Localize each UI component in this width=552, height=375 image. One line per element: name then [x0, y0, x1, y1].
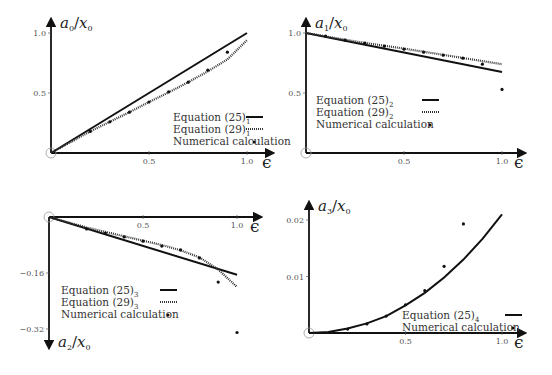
data-point	[385, 314, 388, 317]
y-axis-label: a0/x0	[60, 14, 93, 33]
data-point	[462, 222, 465, 225]
legend-entry: Numerical calculation	[61, 308, 179, 320]
y-tick-label: 0.01	[286, 273, 304, 282]
data-point	[141, 240, 144, 243]
data-point	[344, 39, 347, 42]
data-point	[108, 120, 111, 123]
data-point	[383, 45, 386, 48]
data-point	[500, 88, 503, 91]
x-tick-label: 0.5	[398, 157, 411, 166]
y-tick-label: −0.32	[19, 325, 44, 334]
y-axis-label: a2/x0	[58, 333, 91, 352]
data-point	[422, 51, 425, 54]
panel-a2: 0.51.0−0.16−0.32ϵa2/x0Equation (25)3Equa…	[19, 212, 259, 352]
data-point	[147, 100, 150, 103]
y-tick-label: 0.5	[33, 89, 46, 98]
data-point	[179, 248, 182, 251]
data-point	[402, 48, 405, 51]
data-point	[346, 327, 349, 330]
x-tick-label: 0.5	[137, 221, 150, 230]
data-point	[167, 90, 170, 93]
legend-point-icon	[253, 141, 256, 144]
data-point	[423, 289, 426, 292]
y-tick-label: 1.0	[288, 29, 301, 38]
data-point	[461, 57, 464, 60]
series-line-solid	[306, 33, 502, 72]
data-point	[217, 281, 220, 284]
data-point	[363, 42, 366, 45]
y-axis-label: a3/x0	[318, 197, 351, 216]
legend-point-icon	[167, 314, 170, 317]
legend-entry: Numerical calculation	[316, 118, 434, 130]
y-axis-label: a1/x0	[315, 14, 348, 33]
data-point	[160, 244, 163, 247]
legend: Equation (25)2Equation (29)2Numerical ca…	[316, 94, 439, 130]
data-point	[442, 54, 445, 57]
data-point	[198, 256, 201, 259]
data-point	[324, 34, 327, 37]
data-point	[187, 81, 190, 84]
data-point	[443, 265, 446, 268]
data-point	[123, 235, 126, 238]
y-tick-label: 1.0	[33, 29, 46, 38]
legend: Equation (25)3Equation (29)3Numerical ca…	[61, 284, 179, 320]
x-axis-label: ϵ	[514, 152, 524, 172]
data-point	[481, 63, 484, 66]
y-tick-label: 0.02	[286, 216, 304, 225]
legend-point-icon	[429, 124, 432, 127]
data-point	[235, 331, 238, 334]
data-point	[206, 69, 209, 72]
data-point	[89, 130, 92, 133]
data-point	[85, 227, 88, 230]
y-tick-label: 0.5	[288, 89, 301, 98]
legend: Equation (25)1Equation (29)1Numerical ca…	[173, 111, 291, 147]
x-tick-label: 0.5	[143, 157, 156, 166]
data-point	[128, 111, 131, 114]
panel-a0: 0.51.00.51.0ϵa0/x0Equation (25)1Equation…	[33, 14, 291, 172]
legend-entry: Numerical calculation	[173, 135, 291, 147]
figure: 0.51.00.51.0ϵa0/x0Equation (25)1Equation…	[0, 0, 552, 375]
panel-a3: 0.51.00.010.02ϵa3/x0Equation (25)4Numeri…	[286, 197, 523, 352]
data-point	[365, 322, 368, 325]
y-tick-label: −0.16	[19, 269, 44, 278]
data-point	[404, 303, 407, 306]
x-axis-label: ϵ	[262, 152, 272, 172]
x-tick-label: 0.5	[399, 337, 412, 346]
x-tick-label: 1.0	[496, 337, 509, 346]
x-axis-label: ϵ	[250, 216, 260, 236]
x-tick-label: 1.0	[241, 157, 254, 166]
x-tick-label: 1.0	[496, 157, 509, 166]
data-point	[104, 232, 107, 235]
x-axis-label: ϵ	[514, 332, 524, 352]
panel-a1: 0.51.00.51.0ϵa1/x0Equation (25)2Equation…	[288, 14, 523, 172]
legend-entry: Numerical calculation	[402, 321, 520, 333]
x-tick-label: 1.0	[231, 221, 244, 230]
data-point	[226, 51, 229, 54]
legend-point-icon	[512, 327, 515, 330]
legend: Equation (25)4Numerical calculation	[402, 309, 522, 333]
